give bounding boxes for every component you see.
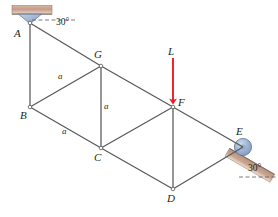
node-label-A: A	[14, 28, 21, 39]
joint-F	[171, 105, 175, 109]
joint-B	[28, 105, 32, 109]
member-D-E	[173, 147, 243, 189]
load-label-L: L	[168, 46, 174, 57]
joint-A	[28, 21, 32, 25]
joint-D	[171, 187, 175, 191]
joint-G	[99, 64, 103, 68]
truss-diagram-svg	[0, 0, 278, 217]
dimension-label-GC: a	[104, 102, 109, 111]
node-label-F: F	[178, 97, 185, 108]
member-G-F	[101, 66, 173, 107]
node-label-C: C	[94, 152, 101, 163]
node-label-D: D	[167, 193, 175, 204]
support-hatch-block-A	[12, 6, 52, 15]
dimension-label-GB: a	[58, 72, 63, 81]
node-label-B: B	[20, 110, 27, 121]
angle-label-E: 30°	[248, 164, 261, 174]
node-label-E: E	[236, 126, 243, 137]
node-label-G: G	[94, 49, 102, 60]
angle-label-A: 30°	[56, 18, 69, 28]
dimension-label-BC: a	[62, 127, 67, 136]
truss-members	[30, 23, 243, 189]
member-G-B	[30, 66, 101, 107]
member-C-D	[101, 148, 173, 189]
member-F-E	[173, 107, 243, 147]
joint-C	[99, 146, 103, 150]
member-A-G	[30, 23, 101, 66]
support-roller-E	[225, 138, 275, 182]
truss-figure: A G B C F D E a a a 30° 30° L	[0, 0, 278, 217]
support-pin-A	[12, 6, 52, 24]
member-C-F	[101, 107, 173, 148]
